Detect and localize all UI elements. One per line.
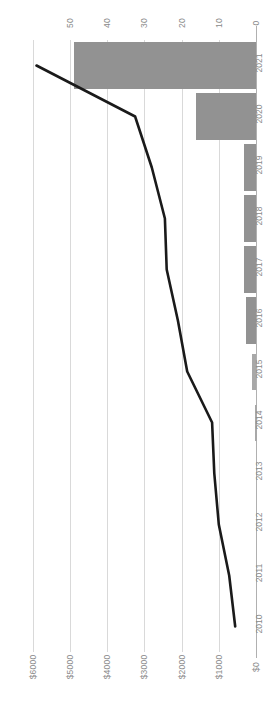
category-label-2017: 2017 <box>254 247 264 287</box>
value-axis-tick: $0 <box>251 645 261 689</box>
bar-axis-tick: 20 <box>177 8 187 38</box>
value-axis-tick: $2000 <box>177 645 187 689</box>
category-label-2012: 2012 <box>254 502 264 542</box>
bar-axis-tick-labels: 50403020100 <box>0 14 269 40</box>
bar <box>74 42 256 89</box>
category-label-2013: 2013 <box>254 451 264 491</box>
gridline <box>107 40 108 652</box>
value-axis-tick: $1000 <box>214 645 224 689</box>
value-axis-tick-labels: $6000$5000$4000$3000$2000$1000$0 <box>0 660 269 686</box>
value-axis-tick: $5000 <box>65 645 75 689</box>
category-label-2021: 2021 <box>254 43 264 83</box>
bar-axis-tick: 10 <box>214 8 224 38</box>
gridline <box>70 40 71 652</box>
bar-axis-tick: 40 <box>102 8 112 38</box>
category-label-2019: 2019 <box>254 145 264 185</box>
bar-axis-tick: 30 <box>139 8 149 38</box>
category-label-2015: 2015 <box>254 349 264 389</box>
value-axis-tick: $4000 <box>102 645 112 689</box>
gridline <box>144 40 145 652</box>
chart-container: 50403020100 2021202020192018201720162015… <box>0 0 269 711</box>
value-axis-tick: $6000 <box>28 645 38 689</box>
bar-axis-tick: 50 <box>65 8 75 38</box>
value-axis-tick: $3000 <box>139 645 149 689</box>
category-label-2020: 2020 <box>254 94 264 134</box>
category-label-2016: 2016 <box>254 298 264 338</box>
category-label-2010: 2010 <box>254 604 264 644</box>
bar <box>196 93 256 140</box>
category-label-2014: 2014 <box>254 400 264 440</box>
gridline <box>182 40 183 652</box>
plot-area: 2021202020192018201720162015201420132012… <box>0 40 269 652</box>
category-label-2018: 2018 <box>254 196 264 236</box>
category-label-2011: 2011 <box>254 553 264 593</box>
gridline <box>33 40 34 652</box>
